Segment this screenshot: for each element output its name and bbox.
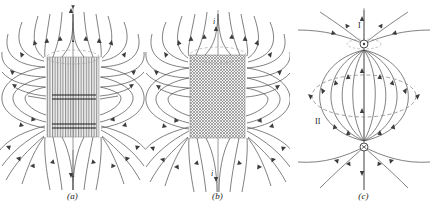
pole-marker-bottom-c: [360, 143, 368, 151]
panel-b-drawing: i i: [145, 0, 290, 203]
pole-marker-top-c: [360, 40, 368, 48]
panel-a: (a): [0, 0, 145, 203]
panel-b-caption: (b): [145, 191, 290, 201]
dipole-field-lines-c: [298, 10, 430, 190]
panel-c-drawing: I II: [290, 0, 437, 203]
current-label-bottom-b: i: [211, 169, 213, 178]
panel-a-drawing: [0, 0, 145, 203]
loop-label-c: II: [315, 117, 321, 126]
solenoid-core-b: [190, 55, 245, 138]
panel-a-caption: (a): [0, 191, 145, 201]
panel-c: I II (c): [290, 0, 437, 203]
current-label-top-b: i: [213, 17, 215, 26]
panel-c-caption: (c): [290, 191, 437, 201]
pole-label-c: I: [358, 21, 361, 30]
figure-magnetic-field-lines: (a): [0, 0, 437, 203]
panel-b: i i (b): [145, 0, 290, 203]
